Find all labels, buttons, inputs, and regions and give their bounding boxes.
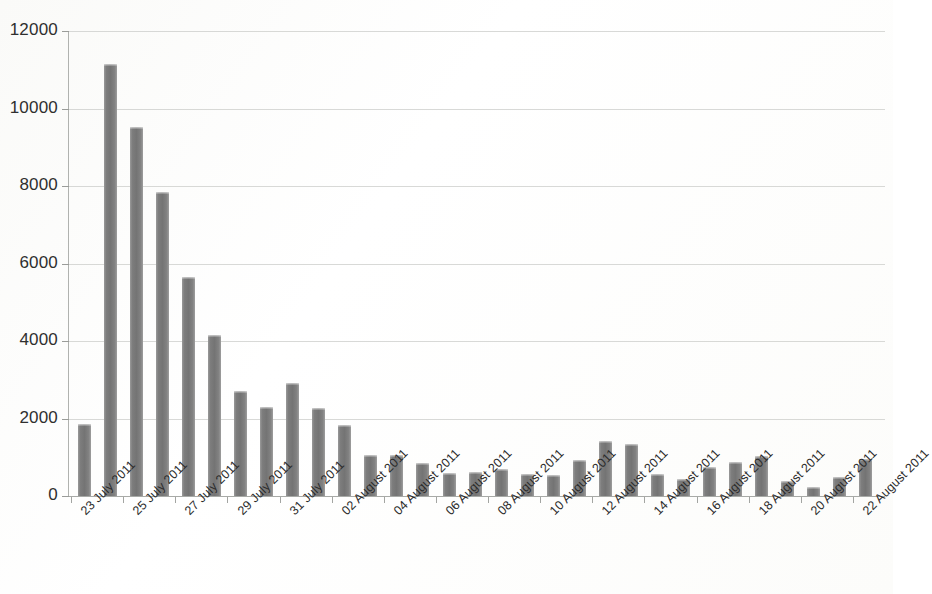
bar (104, 64, 117, 496)
y-tick-12000 (62, 31, 69, 32)
x-tick (175, 497, 176, 503)
y-tick-10000 (62, 109, 69, 110)
y-axis-tick-label: 4000 (19, 330, 58, 350)
x-tick (280, 497, 281, 503)
x-tick (644, 497, 645, 503)
y-axis-tick-label: 10000 (10, 98, 58, 118)
x-tick (436, 497, 437, 503)
bar (651, 474, 664, 496)
x-tick (488, 497, 489, 503)
x-tick (384, 497, 385, 503)
y-axis-tick-label: 6000 (19, 253, 58, 273)
bar (547, 475, 560, 496)
x-tick (123, 497, 124, 503)
y-axis-labels: 020004000600080001000012000 (0, 0, 58, 594)
y-tick-0 (62, 496, 69, 497)
x-tick (227, 497, 228, 503)
y-axis-tick-label: 2000 (19, 408, 58, 428)
x-tick (332, 497, 333, 503)
x-tick (749, 497, 750, 503)
y-axis-tick-label: 12000 (10, 20, 58, 40)
bar (234, 391, 247, 496)
y-axis-tick-label: 8000 (19, 175, 58, 195)
y-tick-4000 (62, 341, 69, 342)
y-tick-6000 (62, 264, 69, 265)
bar (443, 473, 456, 496)
bar (807, 487, 820, 496)
x-tick (853, 497, 854, 503)
y-tick-2000 (62, 419, 69, 420)
bar (130, 127, 143, 496)
x-tick (592, 497, 593, 503)
bar (286, 383, 299, 496)
bar-series (68, 31, 885, 496)
y-axis-tick-label: 0 (48, 485, 58, 505)
x-tick (697, 497, 698, 503)
bar (78, 424, 91, 496)
x-axis-line (68, 496, 885, 497)
y-tick-8000 (62, 186, 69, 187)
x-tick (540, 497, 541, 503)
x-tick (801, 497, 802, 503)
bar (156, 192, 169, 496)
x-tick (71, 497, 72, 503)
